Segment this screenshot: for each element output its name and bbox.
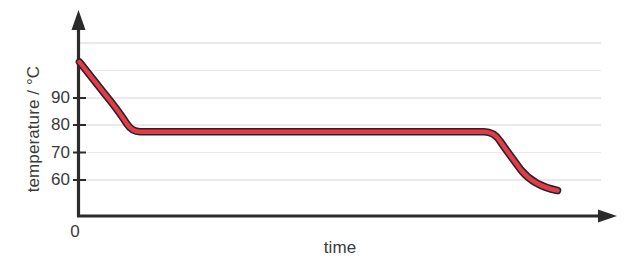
y-axis bbox=[72, 10, 86, 217]
cooling-curve-plot bbox=[0, 0, 644, 277]
curve-outline bbox=[80, 62, 558, 191]
origin-label: 0 bbox=[64, 222, 86, 242]
chart-figure: 90 80 70 60 0 temperature / °C time bbox=[0, 0, 644, 277]
curve-fill bbox=[80, 62, 558, 191]
data-series-cooling-curve bbox=[80, 62, 558, 191]
x-axis-arrow-icon bbox=[598, 210, 617, 223]
x-axis-title: time bbox=[280, 238, 400, 258]
x-axis bbox=[77, 210, 617, 223]
y-axis-title: temperature / °C bbox=[24, 34, 44, 224]
y-axis-arrow-icon bbox=[72, 10, 86, 30]
gridlines bbox=[79, 43, 601, 180]
